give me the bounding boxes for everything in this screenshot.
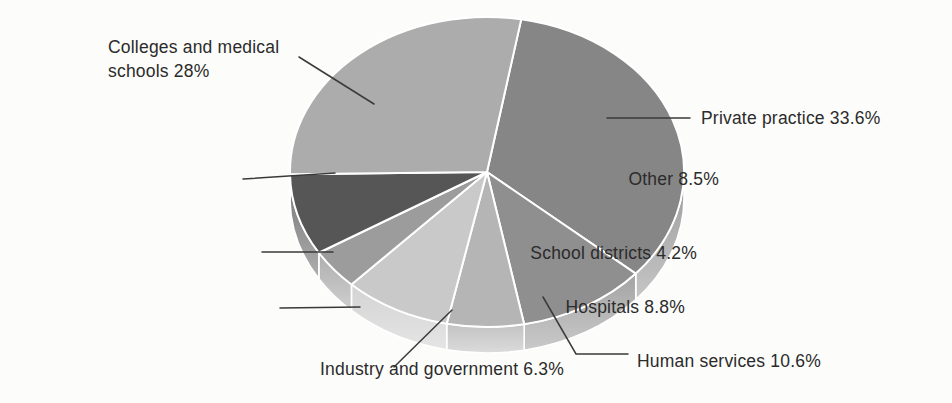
pie-rim-industry bbox=[447, 324, 524, 353]
pie-chart-figure: Private practice 33.6%Human services 10.… bbox=[0, 0, 952, 403]
slice-label-school: School districts 4.2% bbox=[530, 242, 697, 266]
figure-canvas: Private practice 33.6%Human services 10.… bbox=[0, 0, 952, 403]
slice-label-human: Human services 10.6% bbox=[637, 350, 821, 374]
slice-label-hospitals: Hospitals 8.8% bbox=[565, 296, 685, 320]
slice-label-colleges: Colleges and medical schools 28% bbox=[108, 36, 293, 84]
slice-label-private: Private practice 33.6% bbox=[701, 107, 881, 131]
leader-line-hospitals bbox=[280, 307, 360, 308]
slice-label-other: Other 8.5% bbox=[628, 168, 719, 192]
pie-slice-colleges bbox=[290, 17, 521, 174]
pie-top-layer bbox=[290, 17, 684, 327]
slice-label-industry: Industry and government 6.3% bbox=[320, 358, 564, 382]
